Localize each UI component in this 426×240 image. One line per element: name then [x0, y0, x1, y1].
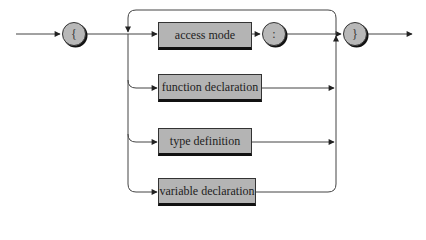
access-mode-label: access mode: [175, 28, 235, 43]
function-declaration-label: function declaration: [162, 80, 258, 95]
close-brace-symbol: }: [352, 27, 358, 42]
type-definition-box: type definition: [158, 128, 252, 156]
open-brace-symbol: {: [71, 27, 77, 42]
variable-declaration-box: variable declaration: [158, 178, 256, 206]
access-mode-box: access mode: [158, 22, 252, 50]
variable-declaration-label: variable declaration: [160, 184, 255, 199]
colon-terminal: :: [262, 22, 286, 46]
colon-symbol: :: [272, 27, 275, 42]
type-definition-label: type definition: [170, 134, 240, 149]
function-declaration-box: function declaration: [158, 74, 262, 102]
open-brace-terminal: {: [62, 22, 86, 46]
close-brace-terminal: }: [343, 22, 367, 46]
